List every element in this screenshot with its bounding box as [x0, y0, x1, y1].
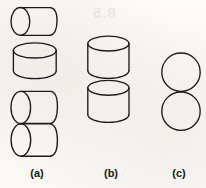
horizontal-cylinder-top [11, 8, 57, 36]
vertical-cylinder-top [88, 36, 129, 78]
panel-label-b: (b) [94, 167, 128, 179]
line-drawing-layer [0, 0, 206, 188]
panel-b-shapes [88, 36, 129, 122]
figure-svg [0, 0, 206, 188]
horizontal-cylinder-lower-lower [11, 124, 57, 156]
panel-a-shapes [11, 8, 57, 157]
vertical-cylinder-middle [13, 43, 56, 79]
circle-top [162, 53, 200, 91]
vertical-cylinder-bottom [88, 80, 129, 122]
horizontal-cylinder-lower-upper [11, 91, 57, 123]
circle-bottom [162, 92, 200, 130]
figure-container: 8.5 [0, 0, 206, 188]
panel-c-shapes [162, 53, 200, 130]
panel-label-c: (c) [162, 167, 196, 179]
panel-label-a: (a) [20, 167, 54, 179]
